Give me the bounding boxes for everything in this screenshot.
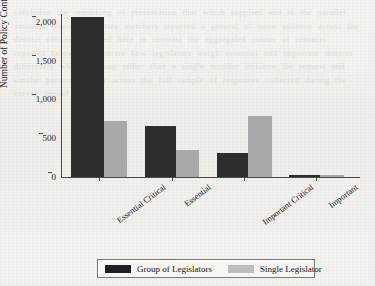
y-tick-mark — [32, 55, 36, 56]
y-tick-2000: 2,000 — [36, 17, 61, 27]
y-tick-mark — [32, 94, 36, 95]
y-tick-mark — [39, 133, 43, 134]
x-axis-label-important-critical: Important Critical — [260, 182, 315, 227]
x-axis-label-essential-critical: Essential Critical — [115, 182, 168, 225]
legend-label-group-of-legislators: Group of Legislators — [137, 264, 212, 274]
bar-essential-group — [145, 126, 176, 177]
y-axis-title: Number of Policy Contacts — [0, 0, 9, 88]
y-tick-500: 500 — [43, 133, 62, 143]
bar-important-critical-single — [248, 116, 272, 177]
legend-label-single-legislator: Single Legislator — [260, 264, 322, 274]
x-tick-mark-important — [316, 177, 317, 181]
y-tick-0: 0 — [52, 172, 62, 182]
bar-essential-single — [176, 150, 199, 177]
bar-chart: Number of Policy Contacts 0 500 1,000 1,… — [0, 0, 375, 286]
bar-important-single — [320, 175, 344, 177]
x-axis-label-essential: Essential — [182, 182, 213, 208]
x-tick-mark-important-critical — [244, 177, 245, 181]
chart-legend: Group of Legislators Single Legislator — [97, 259, 315, 278]
x-axis-label-important: Important — [327, 182, 360, 210]
bar-important-critical-group — [217, 153, 248, 177]
y-tick-mark — [48, 172, 52, 173]
y-tick-1500: 1,500 — [36, 56, 61, 66]
bar-essential-critical-group — [71, 17, 104, 177]
y-tick-mark — [32, 16, 36, 17]
dark-swatch-icon — [105, 265, 131, 273]
legend-entry-single-legislator: Single Legislator — [228, 264, 322, 274]
y-tick-1000: 1,000 — [36, 94, 61, 104]
x-tick-mark-essential-critical — [99, 177, 100, 181]
legend-entry-group-of-legislators: Group of Legislators — [105, 264, 212, 274]
plot-area: 0 500 1,000 1,500 2,000 — [61, 14, 360, 177]
bar-essential-critical-single — [104, 121, 127, 177]
x-tick-mark-essential — [172, 177, 173, 181]
light-swatch-icon — [228, 265, 254, 273]
